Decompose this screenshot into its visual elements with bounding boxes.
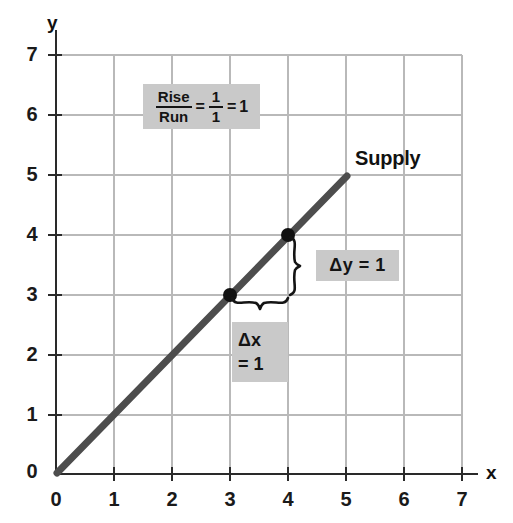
fraction-numerator: 1 xyxy=(210,89,222,105)
x-tick-label-6: 6 xyxy=(392,489,416,509)
x-tick-label-3: 3 xyxy=(218,489,242,509)
delta-x-callout: Δx = 1 xyxy=(232,322,288,382)
y-tick-label-5: 5 xyxy=(20,164,44,184)
equals-sign-2: = xyxy=(227,98,236,116)
delta-x-symbol: Δx xyxy=(232,328,288,352)
y-tick-label-4: 4 xyxy=(20,224,44,244)
y-tick-label-2: 2 xyxy=(20,344,44,364)
chart-canvas xyxy=(0,0,513,523)
x-tick-label-7: 7 xyxy=(450,489,474,509)
supply-series-label: Supply xyxy=(355,147,420,170)
slope-result: 1 xyxy=(239,98,248,116)
data-point-3-3 xyxy=(223,288,237,302)
rise-run-fraction: Rise Run xyxy=(156,89,192,125)
slope-formula-callout: Rise Run = 1 1 = 1 xyxy=(143,84,260,129)
equals-sign-1: = xyxy=(196,98,205,116)
rise-label: Rise xyxy=(156,89,192,105)
y-axis-label: y xyxy=(47,13,58,32)
x-tick-label-2: 2 xyxy=(160,489,184,509)
fraction-denominator: 1 xyxy=(210,109,222,125)
y-tick-label-6: 6 xyxy=(20,104,44,124)
supply-line xyxy=(57,176,347,473)
delta-x-value: = 1 xyxy=(232,352,288,376)
x-tick-label-4: 4 xyxy=(276,489,300,509)
supply-curve-chart: y x 0 1 2 3 4 5 6 7 0 1 2 3 4 5 6 7 Supp… xyxy=(0,0,513,523)
x-tick-label-5: 5 xyxy=(334,489,358,509)
x-tick-label-1: 1 xyxy=(102,489,126,509)
x-tick-label-0: 0 xyxy=(44,489,68,509)
one-over-one-fraction: 1 1 xyxy=(209,89,223,125)
y-tick-label-0: 0 xyxy=(20,461,44,481)
y-tick-label-1: 1 xyxy=(20,404,44,424)
run-label: Run xyxy=(157,109,190,125)
delta-y-callout: Δy = 1 xyxy=(316,250,399,281)
delta-y-brace xyxy=(290,237,300,295)
x-axis-label: x xyxy=(486,463,497,482)
y-tick-label-7: 7 xyxy=(20,44,44,64)
y-tick-label-3: 3 xyxy=(20,284,44,304)
delta-x-brace xyxy=(232,298,288,309)
